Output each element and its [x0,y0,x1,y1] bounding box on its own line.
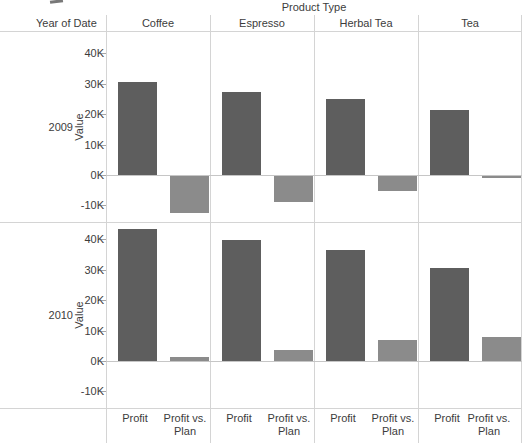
measure-label-espresso-profit[interactable]: Profit [211,412,267,425]
row-header-2009[interactable]: 2009 [0,120,73,134]
panel-divider [106,15,107,443]
bar-2010-herbal-tea-profit[interactable] [326,250,365,361]
y-tick-label: 40K [74,47,104,59]
crosstab-bar-chart: Product Type Year of Date CoffeeEspresso… [0,0,522,443]
bar-2010-espresso-profit-vs-plan[interactable] [274,350,313,361]
y-tick-label: 30K [74,264,104,276]
column-header-coffee[interactable]: Coffee [106,15,210,31]
row-header-2010[interactable]: 2010 [0,308,73,322]
zero-gridline [106,361,522,362]
bar-2010-coffee-profit-vs-plan[interactable] [170,357,209,361]
bar-2009-tea-profit-vs-plan[interactable] [482,176,521,178]
row-field-label[interactable]: Year of Date [0,15,106,31]
y-tick-label: -10K [74,385,104,397]
column-header-espresso[interactable]: Espresso [210,15,314,31]
bar-2010-tea-profit-vs-plan[interactable] [482,337,521,361]
cropped-text-artifact [50,0,63,4]
measure-label-coffee-profit[interactable]: Profit [107,412,163,425]
row-divider [0,222,522,223]
y-tick-label: 0K [74,355,104,367]
y-tick-label: 20K [74,294,104,306]
column-header-herbal-tea[interactable]: Herbal Tea [314,15,418,31]
bar-2009-herbal-tea-profit-vs-plan[interactable] [378,176,417,191]
bar-2010-tea-profit[interactable] [430,268,469,361]
panel-divider [210,15,211,443]
bar-2010-herbal-tea-profit-vs-plan[interactable] [378,340,417,361]
y-tick-label: 40K [74,233,104,245]
bar-2009-espresso-profit[interactable] [222,92,261,175]
bar-2009-coffee-profit-vs-plan[interactable] [170,176,209,213]
column-field-title: Product Type [106,1,522,13]
y-tick-label: 10K [74,139,104,151]
measure-label-coffee-profit-vs-plan[interactable]: Profit vs. Plan [157,412,213,438]
panel-divider [418,15,419,443]
measure-label-herbal-tea-profit-vs-plan[interactable]: Profit vs. Plan [365,412,421,438]
y-tick-label: 30K [74,78,104,90]
measure-label-espresso-profit-vs-plan[interactable]: Profit vs. Plan [261,412,317,438]
measure-label-herbal-tea-profit[interactable]: Profit [315,412,371,425]
column-header-tea[interactable]: Tea [418,15,522,31]
bar-2010-coffee-profit[interactable] [118,229,157,361]
bar-2009-coffee-profit[interactable] [118,82,157,175]
y-tick-label: 0K [74,169,104,181]
row-divider [0,31,522,32]
measure-label-tea-profit-vs-plan[interactable]: Profit vs. Plan [461,412,517,438]
zero-gridline [106,175,522,176]
bar-2009-herbal-tea-profit[interactable] [326,99,365,175]
y-tick-label: -10K [74,199,104,211]
bar-2010-espresso-profit[interactable] [222,240,261,361]
bar-2009-espresso-profit-vs-plan[interactable] [274,176,313,202]
row-divider [0,408,522,409]
panel-divider [314,15,315,443]
y-tick-label: 20K [74,108,104,120]
bar-2009-tea-profit[interactable] [430,110,469,175]
y-tick-label: 10K [74,325,104,337]
